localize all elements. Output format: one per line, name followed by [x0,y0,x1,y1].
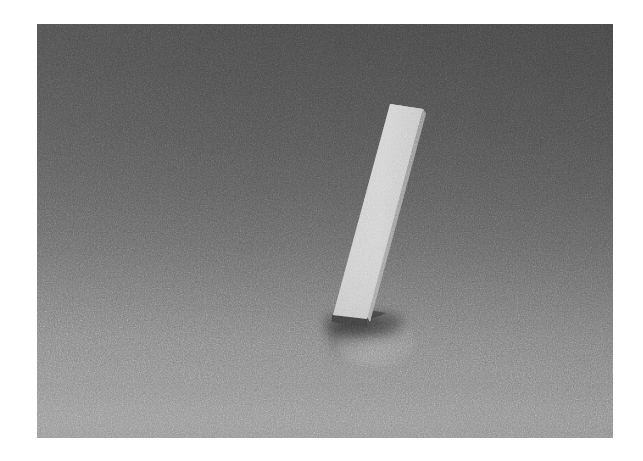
rendered-image-plate [37,24,613,438]
page-canvas [0,0,643,461]
vignette-overlay [37,24,613,438]
